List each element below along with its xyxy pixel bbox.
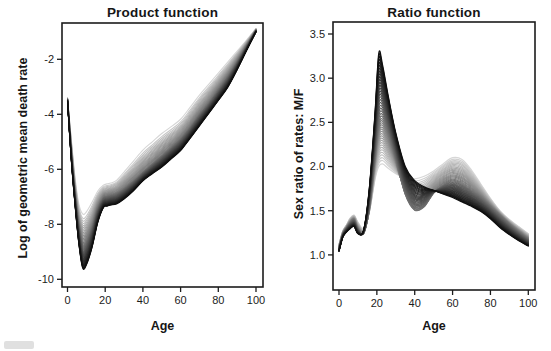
sex-ratio-curve: [339, 150, 528, 246]
y-tick-label: 3.5: [310, 28, 325, 40]
sex-ratio-curve-family: [339, 51, 528, 252]
y-tick-label: -4: [44, 108, 54, 120]
y-tick-label: -2: [44, 53, 54, 65]
x-tick-label: 80: [484, 297, 496, 309]
y-tick-label: -8: [44, 218, 54, 230]
y-tick-label: 2.5: [310, 116, 325, 128]
x-tick-label: 0: [64, 294, 70, 306]
mortality-curve: [68, 29, 257, 215]
plot-frame: [333, 22, 535, 290]
x-tick-label: 20: [99, 294, 111, 306]
x-tick-label: 0: [336, 297, 342, 309]
y-tick-label: 1.0: [310, 249, 325, 261]
sex-ratio-curve: [339, 145, 528, 246]
product-function-plot-area: 020406080100-2-4-6-8-10: [0, 0, 275, 351]
scan-artifact-smudge: [4, 341, 34, 349]
y-tick-label: -10: [38, 273, 54, 285]
x-tick-label: 40: [409, 297, 421, 309]
mortality-curve-family: [68, 29, 257, 270]
x-tick-label: 40: [137, 294, 149, 306]
sex-ratio-curve: [339, 71, 528, 250]
mortality-curve: [68, 29, 257, 221]
x-tick-label: 80: [212, 294, 224, 306]
x-tick-label: 100: [519, 297, 537, 309]
ratio-function-x-axis-label: Age: [333, 319, 535, 334]
product-function-x-axis-label: Age: [62, 319, 263, 334]
x-tick-label: 60: [174, 294, 186, 306]
sex-ratio-curve: [339, 152, 528, 245]
x-tick-label: 100: [247, 294, 265, 306]
sex-ratio-curve: [339, 147, 528, 245]
y-tick-label: 3.0: [310, 72, 325, 84]
x-tick-label: 20: [371, 297, 383, 309]
sex-ratio-curve: [339, 157, 528, 244]
y-tick-label: 1.5: [310, 205, 325, 217]
y-tick-label: 2.0: [310, 160, 325, 172]
two-panel-mortality-figure: Product function Log of geometric mean d…: [0, 0, 551, 351]
x-tick-label: 60: [446, 297, 458, 309]
sex-ratio-curve: [339, 155, 528, 245]
y-tick-label: -6: [44, 163, 54, 175]
sex-ratio-curve: [339, 143, 528, 246]
mortality-curve: [68, 29, 257, 219]
ratio-function-plot-area: 0204060801003.53.02.52.01.51.0: [275, 0, 551, 351]
